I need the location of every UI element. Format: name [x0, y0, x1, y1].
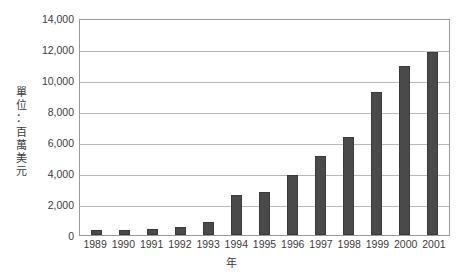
bar-slot	[194, 20, 222, 235]
x-axis-tick-label: 2000	[392, 238, 420, 250]
bar[interactable]	[175, 227, 186, 235]
y-axis-tick-label: 2,000	[48, 199, 74, 211]
bar-slot	[250, 20, 278, 235]
y-axis-title-char: 萬	[10, 139, 32, 152]
bar-slot	[110, 20, 138, 235]
plot-area	[79, 19, 450, 236]
bar-slot	[82, 20, 110, 235]
x-axis-tick-label: 1998	[335, 238, 363, 250]
y-axis-tick-label: 0	[68, 230, 74, 242]
y-axis-tick-label: 8,000	[48, 106, 74, 118]
bar-slot	[363, 20, 391, 235]
x-axis-tick-label: 1993	[194, 238, 222, 250]
x-axis-tick-label: 1994	[222, 238, 250, 250]
bar[interactable]	[231, 195, 242, 235]
bar[interactable]	[119, 230, 130, 235]
y-axis-title-char: 位	[10, 99, 32, 112]
y-axis-title-char: 美	[10, 152, 32, 165]
y-axis-tick-label: 14,000	[42, 13, 74, 25]
x-axis-tick-label: 1990	[109, 238, 137, 250]
x-axis-tick-labels: 1989199019911992199319941995199619971998…	[79, 238, 450, 250]
x-axis-tick-label: 1996	[279, 238, 307, 250]
bar-chart: 單位：百萬美元 02,0004,0006,0008,00010,00012,00…	[0, 0, 462, 275]
bar-slot	[419, 20, 447, 235]
bar[interactable]	[287, 175, 298, 235]
bar[interactable]	[427, 52, 438, 235]
x-axis-tick-label: 1997	[307, 238, 335, 250]
bar[interactable]	[315, 156, 326, 235]
bar[interactable]	[399, 66, 410, 235]
x-axis-tick-label: 1991	[137, 238, 165, 250]
bar-slot	[335, 20, 363, 235]
bar-slot	[222, 20, 250, 235]
y-axis-title-char: ：	[10, 112, 32, 125]
y-axis-title-char: 百	[10, 126, 32, 139]
x-axis-tick-label: 1992	[166, 238, 194, 250]
bar-slot	[279, 20, 307, 235]
x-axis-title: 年	[0, 254, 462, 270]
bar[interactable]	[343, 137, 354, 235]
x-axis-tick-label: 1989	[81, 238, 109, 250]
y-axis-title-char: 元	[10, 165, 32, 178]
y-axis-tick-label: 4,000	[48, 168, 74, 180]
bar-slot	[166, 20, 194, 235]
y-axis-tick-label: 6,000	[48, 137, 74, 149]
y-axis-tick-label: 10,000	[42, 75, 74, 87]
bar[interactable]	[91, 230, 102, 235]
bar[interactable]	[147, 229, 158, 235]
bar[interactable]	[371, 92, 382, 235]
bar[interactable]	[203, 222, 214, 235]
bar-slot	[391, 20, 419, 235]
bar[interactable]	[259, 192, 270, 235]
y-axis-tick-labels: 02,0004,0006,0008,00010,00012,00014,000	[36, 19, 78, 236]
bar-slot	[307, 20, 335, 235]
bar-series	[80, 20, 449, 235]
x-axis-tick-label: 2001	[420, 238, 448, 250]
bar-slot	[138, 20, 166, 235]
y-axis-tick-label: 12,000	[42, 44, 74, 56]
x-axis-tick-label: 1999	[363, 238, 391, 250]
x-axis-tick-label: 1995	[250, 238, 278, 250]
y-axis-title-char: 單	[10, 86, 32, 99]
y-axis-title: 單位：百萬美元	[10, 86, 32, 178]
